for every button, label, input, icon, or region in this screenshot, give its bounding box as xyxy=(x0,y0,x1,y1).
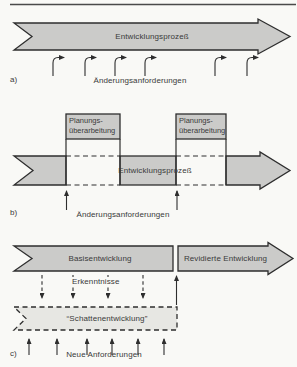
process-band-right-arrowhead xyxy=(226,152,290,189)
base-development-label: Basisentwicklung xyxy=(20,254,180,264)
diagram-page: Entwicklungsprozeß Änderungsanforderunge… xyxy=(0,0,297,367)
change-requests-label-b: Änderungsanforderungen xyxy=(53,210,193,220)
process-band-label-a: Entwicklungsprozeß xyxy=(52,32,252,42)
process-band-left-tail xyxy=(14,156,66,185)
planning-rework-label-1-line2: überarbeitung xyxy=(69,126,115,136)
planning-rework-label-2-line1: Planungs- xyxy=(179,116,225,126)
planning-rework-label-1: Planungs- überarbeitung xyxy=(69,116,115,136)
change-request-curved-arrows xyxy=(53,58,258,77)
revised-development-label: Revidierte Entwicklung xyxy=(179,254,272,264)
curved-arrow-icon xyxy=(247,58,258,77)
diagram-canvas xyxy=(0,0,297,367)
curved-arrow-icon xyxy=(85,58,96,77)
planning-rework-label-2: Planungs- überarbeitung xyxy=(179,116,225,136)
planning-rework-label-1-line1: Planungs- xyxy=(69,116,115,126)
planning-rework-label-2-line2: überarbeitung xyxy=(179,126,225,136)
curved-arrow-icon xyxy=(115,58,126,77)
curved-arrow-icon xyxy=(215,58,226,77)
insights-label: Erkenntnisse xyxy=(70,277,121,287)
section-marker-c: c) xyxy=(10,349,17,359)
new-requirements-label: Neue Anforderungen xyxy=(44,350,164,360)
change-requests-label-a: Änderungsanforderungen xyxy=(60,76,220,86)
process-band-label-b: Entwicklungsprozeß xyxy=(75,166,235,176)
insights-label-text: Erkenntnisse xyxy=(70,277,121,286)
section-b-diagram xyxy=(14,114,290,210)
curved-arrow-icon xyxy=(145,58,156,77)
curved-arrow-icon xyxy=(53,58,64,77)
shadow-development-label: “Schattenentwicklung” xyxy=(27,314,187,324)
section-a-diagram xyxy=(14,19,290,76)
section-marker-b: b) xyxy=(10,208,17,218)
section-marker-a: a) xyxy=(10,75,17,85)
